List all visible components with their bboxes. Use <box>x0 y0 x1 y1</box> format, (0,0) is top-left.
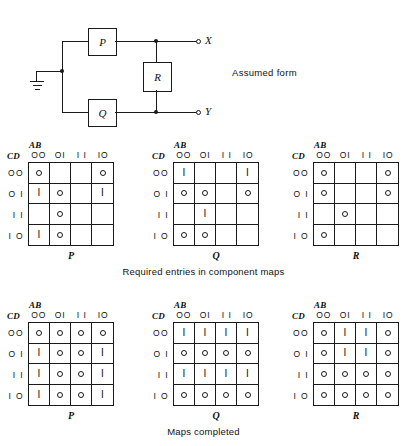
kmap-cell[interactable]: I <box>195 204 216 225</box>
kmap-cell[interactable] <box>237 184 258 205</box>
kmap-cell[interactable] <box>377 204 398 225</box>
kmap-cell[interactable]: I <box>195 364 216 385</box>
kmap-cell[interactable]: I <box>335 344 356 365</box>
terminal-x[interactable] <box>196 39 201 44</box>
kmap-cell[interactable] <box>377 323 398 344</box>
component-box-q[interactable]: Q <box>88 99 117 127</box>
kmap-cell[interactable] <box>237 385 258 406</box>
kmap-cell[interactable] <box>377 225 398 246</box>
kmap-cell[interactable] <box>216 184 237 205</box>
kmap-cell[interactable] <box>356 204 377 225</box>
kmap-cell[interactable] <box>92 204 113 225</box>
kmap-cell[interactable] <box>216 225 237 246</box>
kmap-cell[interactable] <box>29 323 50 344</box>
kmap-cell[interactable] <box>50 364 71 385</box>
kmap-cell[interactable] <box>216 163 237 184</box>
kmap-cell[interactable] <box>377 163 398 184</box>
kmap-cell[interactable] <box>71 163 92 184</box>
kmap-cell[interactable] <box>195 385 216 406</box>
kmap-cell[interactable] <box>195 225 216 246</box>
component-box-p[interactable]: P <box>88 28 117 56</box>
kmap-cell[interactable]: I <box>237 364 258 385</box>
terminal-y[interactable] <box>196 110 201 115</box>
kmap-cell[interactable] <box>237 344 258 365</box>
kmap-cell[interactable] <box>174 385 195 406</box>
kmap-cell[interactable] <box>314 323 335 344</box>
kmap-cell[interactable] <box>377 184 398 205</box>
kmap-cell[interactable] <box>71 344 92 365</box>
kmap-cell[interactable] <box>71 225 92 246</box>
kmap-cell[interactable]: I <box>92 385 113 406</box>
kmap-cell[interactable] <box>216 385 237 406</box>
kmap-cell[interactable] <box>174 225 195 246</box>
kmap-cell[interactable] <box>71 385 92 406</box>
kmap-cell[interactable] <box>92 323 113 344</box>
kmap-cell[interactable] <box>195 163 216 184</box>
kmap-cell[interactable] <box>335 385 356 406</box>
kmap-cell[interactable] <box>356 184 377 205</box>
kmap-cell[interactable]: I <box>356 323 377 344</box>
kmap-cell[interactable] <box>216 204 237 225</box>
kmap-cell[interactable] <box>377 364 398 385</box>
kmap-cell[interactable] <box>335 364 356 385</box>
kmap-cell[interactable]: I <box>92 184 113 205</box>
kmap-cell[interactable]: I <box>335 323 356 344</box>
kmap-cell[interactable] <box>174 184 195 205</box>
kmap-cell[interactable] <box>92 163 113 184</box>
kmap-cell[interactable] <box>314 225 335 246</box>
kmap-cell[interactable] <box>71 364 92 385</box>
kmap-cell[interactable] <box>237 225 258 246</box>
kmap-cell[interactable]: I <box>216 323 237 344</box>
kmap-cell[interactable] <box>335 225 356 246</box>
kmap-cell[interactable] <box>71 184 92 205</box>
kmap-cell[interactable]: I <box>29 385 50 406</box>
kmap-cell[interactable] <box>195 184 216 205</box>
kmap-cell[interactable]: I <box>92 364 113 385</box>
kmap-cell[interactable] <box>335 204 356 225</box>
kmap-cell[interactable] <box>174 204 195 225</box>
kmap-cell[interactable] <box>216 344 237 365</box>
kmap-cell[interactable] <box>314 163 335 184</box>
kmap-cell[interactable]: I <box>174 323 195 344</box>
kmap-cell[interactable] <box>29 163 50 184</box>
kmap-cell[interactable]: I <box>195 323 216 344</box>
kmap-cell[interactable] <box>377 385 398 406</box>
kmap-cell[interactable] <box>314 204 335 225</box>
kmap-cell[interactable] <box>314 364 335 385</box>
kmap-cell[interactable] <box>50 184 71 205</box>
kmap-cell[interactable] <box>377 344 398 365</box>
kmap-cell[interactable] <box>356 225 377 246</box>
kmap-cell[interactable]: I <box>174 364 195 385</box>
kmap-cell[interactable] <box>195 344 216 365</box>
kmap-cell[interactable] <box>237 204 258 225</box>
kmap-cell[interactable] <box>356 163 377 184</box>
kmap-cell[interactable]: I <box>29 344 50 365</box>
kmap-cell[interactable] <box>50 163 71 184</box>
kmap-cell[interactable] <box>71 323 92 344</box>
kmap-cell[interactable]: I <box>92 344 113 365</box>
kmap-cell[interactable] <box>50 323 71 344</box>
kmap-cell[interactable]: I <box>237 163 258 184</box>
kmap-cell[interactable] <box>314 344 335 365</box>
kmap-cell[interactable] <box>50 204 71 225</box>
kmap-cell[interactable] <box>50 344 71 365</box>
kmap-cell[interactable] <box>335 163 356 184</box>
kmap-cell[interactable] <box>314 184 335 205</box>
kmap-cell[interactable] <box>356 364 377 385</box>
kmap-cell[interactable] <box>50 385 71 406</box>
kmap-cell[interactable]: I <box>29 184 50 205</box>
kmap-cell[interactable]: I <box>29 364 50 385</box>
kmap-cell[interactable] <box>314 385 335 406</box>
component-box-r[interactable]: R <box>143 62 172 92</box>
kmap-cell[interactable] <box>50 225 71 246</box>
kmap-cell[interactable]: I <box>174 163 195 184</box>
kmap-cell[interactable]: I <box>29 225 50 246</box>
kmap-cell[interactable]: I <box>237 323 258 344</box>
kmap-cell[interactable] <box>71 204 92 225</box>
kmap-cell[interactable]: I <box>356 344 377 365</box>
kmap-cell[interactable] <box>335 184 356 205</box>
kmap-cell[interactable] <box>29 204 50 225</box>
kmap-cell[interactable] <box>356 385 377 406</box>
kmap-cell[interactable] <box>174 344 195 365</box>
kmap-cell[interactable]: I <box>216 364 237 385</box>
